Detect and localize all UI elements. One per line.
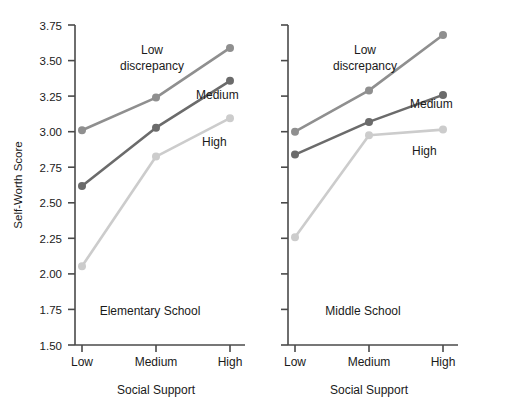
data-point-low-discrepancy-low [78, 126, 86, 134]
y-tick-label-2.75: 2.75 [40, 162, 62, 174]
y-tick-label-1.50: 1.50 [40, 340, 62, 352]
x-tick-label-high: High [218, 355, 243, 369]
panel-title-middle: Middle School [325, 304, 400, 318]
series-label-high: High [412, 144, 437, 158]
data-point-low-discrepancy-medium [365, 86, 373, 94]
data-point-medium-low [291, 151, 299, 159]
series-label-low-discrepancy-line2: discrepancy [120, 59, 184, 73]
data-point-high-medium [152, 153, 160, 161]
y-tick-label-3.00: 3.00 [40, 126, 62, 138]
y-tick-label-2.00: 2.00 [40, 268, 62, 280]
y-tick-label-2.50: 2.50 [40, 197, 62, 209]
data-point-medium-medium [152, 124, 160, 132]
data-point-medium-high [226, 77, 234, 85]
x-tick-label-low: Low [284, 355, 306, 369]
panel-elementary-svg: 1.50 1.75 2.00 2.25 2.50 2.75 3.00 3.25 … [0, 0, 254, 407]
x-tick-label-low: Low [71, 355, 93, 369]
y-tick-label-3.25: 3.25 [40, 91, 62, 103]
data-point-low-discrepancy-high [226, 44, 234, 52]
y-tick-label-2.25: 2.25 [40, 233, 62, 245]
data-point-low-discrepancy-high [439, 31, 447, 39]
data-point-high-high [226, 114, 234, 122]
series-label-low-discrepancy-line2: discrepancy [333, 59, 397, 73]
data-point-medium-medium [365, 118, 373, 126]
x-axis-title: Social Support [330, 383, 409, 397]
y-tick-label-3.75: 3.75 [40, 20, 62, 32]
series-label-medium: Medium [410, 97, 453, 111]
x-tick-label-high: High [431, 355, 456, 369]
data-point-high-low [78, 262, 86, 270]
series-label-high: High [202, 135, 227, 149]
panel-elementary-school: 1.50 1.75 2.00 2.25 2.50 2.75 3.00 3.25 … [0, 0, 254, 407]
series-label-low-discrepancy-line1: Low [141, 43, 163, 57]
data-point-low-discrepancy-low [291, 128, 299, 136]
y-axis-title: Self-Worth Score [12, 141, 24, 228]
data-point-high-high [439, 126, 447, 134]
data-point-medium-low [78, 182, 86, 190]
panel-middle-svg: Low Medium High Social Support Middle Sc… [255, 0, 509, 407]
y-tick-label-3.50: 3.50 [40, 55, 62, 67]
x-tick-label-medium: Medium [348, 355, 391, 369]
y-tick-label-1.75: 1.75 [40, 304, 62, 316]
data-point-low-discrepancy-medium [152, 94, 160, 102]
series-label-low-discrepancy-line1: Low [354, 43, 376, 57]
chart-figure: 1.50 1.75 2.00 2.25 2.50 2.75 3.00 3.25 … [0, 0, 509, 407]
panel-middle-school: Low Medium High Social Support Middle Sc… [255, 0, 509, 407]
x-axis-title: Social Support [117, 383, 196, 397]
x-tick-label-medium: Medium [135, 355, 178, 369]
panel-title-elementary: Elementary School [100, 304, 201, 318]
series-label-medium: Medium [196, 88, 239, 102]
data-point-high-low [291, 233, 299, 241]
data-point-high-medium [365, 131, 373, 139]
